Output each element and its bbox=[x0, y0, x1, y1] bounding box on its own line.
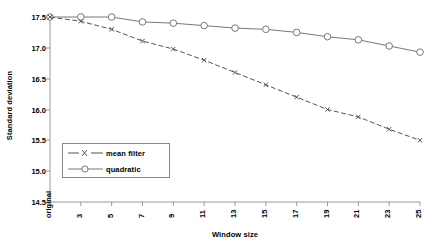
x-tick-label: 21 bbox=[352, 206, 364, 249]
data-point-marker bbox=[417, 49, 424, 56]
data-point-marker bbox=[233, 70, 237, 74]
data-point-marker bbox=[140, 39, 144, 43]
x-tick-label-text: original bbox=[44, 191, 53, 218]
x-tick-label-text: 7 bbox=[137, 214, 146, 218]
data-point-marker bbox=[293, 29, 300, 36]
x-tick-label: 5 bbox=[106, 206, 118, 249]
data-point-marker bbox=[264, 83, 268, 87]
x-tick-label: 9 bbox=[167, 206, 179, 249]
x-tick-label-text: 19 bbox=[322, 210, 331, 218]
chart-container: Standard deviation 17.5 17.0 16.5 16.0 1… bbox=[0, 0, 430, 249]
legend-swatch-mean-filter bbox=[66, 146, 106, 160]
x-tick-label-text: 23 bbox=[383, 210, 392, 218]
x-tick-label: original bbox=[44, 206, 56, 249]
legend: mean filter quadratic bbox=[62, 143, 170, 178]
x-tick-label-text: 5 bbox=[106, 214, 115, 218]
data-point-marker bbox=[418, 138, 422, 142]
x-tick-label-text: 15 bbox=[260, 210, 269, 218]
legend-swatch-quadratic bbox=[66, 162, 106, 176]
x-tick-label-text: 25 bbox=[414, 210, 423, 218]
x-tick-label: 11 bbox=[198, 206, 210, 249]
x-tick-label-text: 9 bbox=[167, 214, 176, 218]
x-tick-label: 19 bbox=[322, 206, 334, 249]
data-point-marker bbox=[232, 25, 239, 32]
data-point-marker bbox=[139, 19, 146, 26]
data-point-marker bbox=[201, 22, 208, 29]
x-tick-label: 7 bbox=[137, 206, 149, 249]
x-tick-label-text: 21 bbox=[352, 210, 361, 218]
series-mean-filter bbox=[48, 15, 422, 143]
data-point-marker bbox=[202, 58, 206, 62]
data-point-marker bbox=[108, 14, 115, 21]
data-point-marker bbox=[171, 47, 175, 51]
legend-label: mean filter bbox=[106, 149, 145, 158]
data-point-marker bbox=[387, 127, 391, 131]
x-tick-label: 23 bbox=[383, 206, 395, 249]
data-point-marker bbox=[355, 37, 362, 44]
legend-item-quadratic: quadratic bbox=[63, 161, 171, 177]
legend-item-mean-filter: mean filter bbox=[63, 145, 171, 161]
x-tick-label-text: 13 bbox=[229, 210, 238, 218]
x-axis-tick-labels: original35791113151719212325 bbox=[0, 206, 430, 249]
x-tick-label-text: 17 bbox=[291, 210, 300, 218]
data-point-marker bbox=[263, 26, 270, 33]
x-tick-label: 17 bbox=[291, 206, 303, 249]
x-tick-label: 15 bbox=[260, 206, 272, 249]
series-line bbox=[50, 17, 420, 52]
series-line bbox=[50, 17, 420, 140]
x-tick-label: 25 bbox=[414, 206, 426, 249]
data-point-marker bbox=[324, 33, 331, 40]
series-quadratic bbox=[47, 14, 424, 56]
data-point-marker bbox=[386, 43, 393, 50]
data-point-marker bbox=[170, 20, 177, 27]
y-axis-ticks bbox=[46, 17, 50, 202]
legend-label: quadratic bbox=[106, 165, 141, 174]
x-tick-label: 3 bbox=[75, 206, 87, 249]
x-tick-label-text: 3 bbox=[75, 214, 84, 218]
x-tick-label: 13 bbox=[229, 206, 241, 249]
x-tick-label-text: 11 bbox=[198, 210, 207, 218]
data-point-marker bbox=[294, 95, 298, 99]
x-axis-title: Window size bbox=[50, 230, 420, 239]
